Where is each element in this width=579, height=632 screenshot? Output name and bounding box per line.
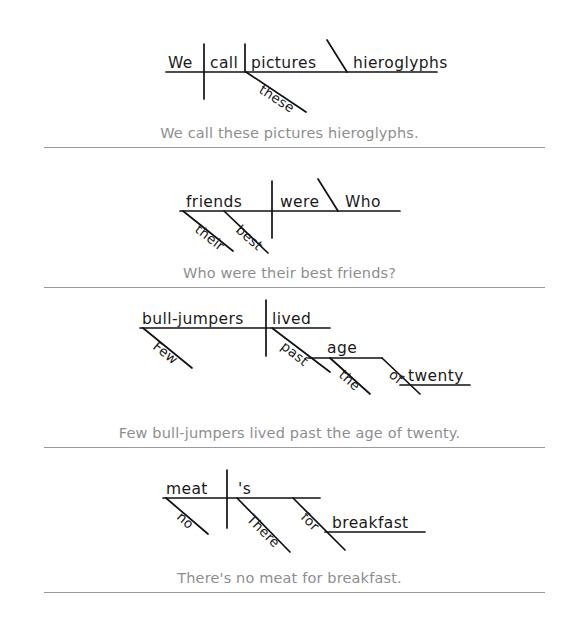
word-predicate-nominative: Who [345,193,381,211]
word-article-the: the [336,366,364,393]
caption-3: Few bull-jumpers lived past the age of t… [0,425,579,441]
word-prep-object-breakfast: breakfast [332,514,409,532]
caption-2: Who were their best friends? [0,265,579,281]
word-subject: We [168,54,193,72]
diagram-section-1: We call pictures hieroglyphs these We ca… [0,0,579,150]
diagram-3-svg: bull-jumpers lived Few past age the of t… [0,290,579,435]
word-object: pictures [251,54,316,72]
word-preposition-for: for [298,509,323,534]
worksheet-page: We call pictures hieroglyphs these We ca… [0,0,579,632]
word-subject: meat [166,480,208,498]
word-subject: bull-jumpers [142,310,244,328]
word-modifier-these: these [256,81,297,116]
word-modifier-their: their [192,221,228,254]
word-verb: call [210,54,238,72]
diagram-2-svg: friends were Who their best [0,155,579,275]
word-subject: friends [186,193,242,211]
word-modifier-no: no [174,508,198,532]
section-divider-4 [44,592,545,593]
word-verb: 's [238,480,251,498]
word-modifier-few: Few [150,338,181,368]
word-prep-object-age: age [327,339,357,357]
section-divider-1 [44,147,545,148]
section-divider-2 [44,287,545,288]
predicate-nominative-divider [318,179,338,211]
caption-1: We call these pictures hieroglyphs. [0,125,579,141]
word-prep-object-twenty: twenty [408,367,464,385]
word-object-complement: hieroglyphs [353,54,448,72]
word-verb: were [280,193,319,211]
word-verb: lived [272,310,311,328]
diagram-1-svg: We call pictures hieroglyphs these [0,0,579,135]
object-complement-divider [327,40,347,72]
caption-4: There's no meat for breakfast. [0,570,579,586]
section-divider-3 [44,447,545,448]
word-expletive-there: There [243,510,283,550]
word-modifier-best: best [233,221,266,253]
word-preposition-past: past [278,338,312,369]
